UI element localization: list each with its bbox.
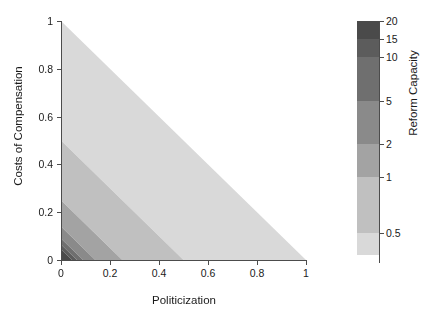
x-axis-title: Politicization <box>61 294 307 306</box>
colorbar-tick-label: 5 <box>386 95 392 106</box>
x-tick-label: 0 <box>58 268 64 279</box>
colorbar-title: Reform Capacity <box>407 23 419 163</box>
colorbar-tick-mark <box>380 21 384 22</box>
contour-field <box>61 21 306 260</box>
y-axis-ticks: 00.20.40.60.81 <box>0 0 53 324</box>
x-tick-mark <box>306 261 307 265</box>
colorbar-tick-mark <box>380 101 384 102</box>
colorbar-tick-label: 20 <box>386 16 398 27</box>
x-axis-line <box>61 260 307 261</box>
y-tick-mark <box>57 117 61 118</box>
colorbar-swatch <box>357 39 379 58</box>
colorbar-tick-mark <box>380 39 384 40</box>
y-tick-label: 1 <box>47 16 53 27</box>
colorbar-tick-mark <box>380 57 384 58</box>
colorbar-tick-mark <box>380 177 384 178</box>
plot-area <box>61 21 306 260</box>
colorbar-swatches <box>357 21 379 233</box>
colorbar-swatch <box>357 101 379 145</box>
x-tick-label: 0.4 <box>152 268 167 279</box>
contour-plot-figure: 00.20.40.60.81 00.20.40.60.81 Politiciza… <box>0 0 425 324</box>
x-tick-label: 0.6 <box>201 268 216 279</box>
colorbar-swatch <box>357 233 379 255</box>
y-tick-label: 0.4 <box>38 159 53 170</box>
x-tick-mark <box>208 261 209 265</box>
colorbar-tick-label: 0.5 <box>386 228 401 239</box>
y-tick-mark <box>57 212 61 213</box>
x-tick-mark <box>110 261 111 265</box>
y-tick-label: 0 <box>47 255 53 266</box>
x-tick-mark <box>159 261 160 265</box>
y-tick-label: 0.6 <box>38 111 53 122</box>
colorbar-tick-label: 10 <box>386 52 398 63</box>
y-tick-label: 0.8 <box>38 64 53 75</box>
y-axis-title: Costs of Compensation <box>12 46 24 206</box>
y-tick-mark <box>57 260 61 261</box>
colorbar-tick-label: 15 <box>386 34 398 45</box>
colorbar-swatch <box>357 144 379 177</box>
colorbar-tick-mark <box>380 144 384 145</box>
x-tick-mark <box>257 261 258 265</box>
x-tick-label: 0.8 <box>250 268 265 279</box>
x-tick-mark <box>61 261 62 265</box>
x-tick-label: 0.2 <box>103 268 118 279</box>
colorbar-tick-label: 1 <box>386 172 392 183</box>
colorbar-tick-mark <box>380 233 384 234</box>
y-tick-mark <box>57 69 61 70</box>
colorbar-tick-label: 2 <box>386 139 392 150</box>
y-tick-mark <box>57 164 61 165</box>
colorbar-swatch <box>357 57 379 101</box>
colorbar-swatch <box>357 21 379 40</box>
y-axis-line <box>61 21 62 261</box>
y-tick-label: 0.2 <box>38 207 53 218</box>
x-tick-label: 1 <box>303 268 309 279</box>
colorbar-swatch <box>357 177 379 234</box>
y-tick-mark <box>57 21 61 22</box>
